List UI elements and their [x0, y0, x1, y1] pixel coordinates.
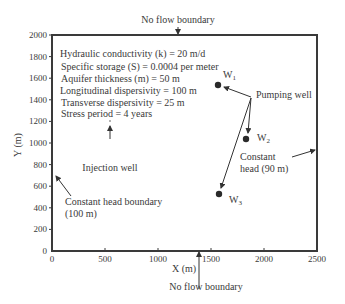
parameters-block: Hydraulic conductivity (k) = 20 m/d Spec…: [60, 48, 219, 119]
x-tick-label: 1000: [149, 254, 168, 264]
injection-well-marker: [109, 120, 111, 122]
left-boundary-label-line2: (100 m): [65, 208, 97, 220]
y-tick-label: 1600: [29, 73, 48, 83]
param-line: Longitudinal dispersivity = 100 m: [60, 85, 197, 96]
x-tick-label: 0: [50, 254, 55, 264]
y-tick-label: 800: [34, 160, 48, 170]
right-boundary-arrow: [292, 150, 315, 157]
x-axis-label: X (m): [172, 263, 196, 275]
param-line: Specific storage (S) = 0.0004 per meter: [61, 61, 219, 73]
y-axis-label: Y (m): [12, 133, 24, 157]
y-tick-label: 1000: [29, 138, 48, 148]
bottom-boundary-label: No flow boundary: [169, 281, 242, 292]
pumping-arrow-w3: [221, 98, 251, 188]
param-line: Stress period = 4 years: [61, 108, 152, 119]
injection-well-label: Injection well: [82, 162, 137, 173]
pumping-well-label: Pumping well: [256, 89, 312, 100]
right-boundary-label-line1: Constant: [240, 151, 276, 162]
y-tick-label: 1200: [29, 116, 48, 126]
param-line: Aquifer thickness (m) = 50 m: [61, 73, 180, 85]
well-w1-label: W1: [223, 69, 236, 82]
left-boundary-arrow: [56, 176, 71, 196]
y-tick-label: 200: [34, 224, 48, 234]
y-tick-label: 0: [43, 246, 48, 256]
well-w1-marker: [215, 82, 221, 88]
y-tick-label: 1800: [29, 52, 48, 62]
well-w3-label: W3: [229, 194, 242, 207]
y-tick-label: 400: [34, 203, 48, 213]
well-w2-label: W2: [257, 132, 270, 145]
y-tick-label: 2000: [29, 30, 48, 40]
well-w2-marker: [243, 136, 249, 142]
y-tick-label: 1400: [29, 95, 48, 105]
x-tick-label: 2000: [255, 254, 274, 264]
x-tick-label: 2500: [308, 254, 327, 264]
top-boundary-label: No flow boundary: [141, 14, 214, 25]
y-tick-label: 600: [34, 181, 48, 191]
well-w3-marker: [216, 191, 222, 197]
param-line: Transverse dispersivity = 25 m: [61, 97, 185, 108]
aquifer-diagram: No flow boundary 2000 1800 1600 1400 120…: [0, 0, 345, 304]
left-boundary-label-line1: Constant head boundary: [65, 196, 162, 207]
pumping-arrow-w1: [224, 87, 251, 97]
param-line: Hydraulic conductivity (k) = 20 m/d: [60, 48, 205, 60]
right-boundary-label-line2: head (90 m): [240, 163, 288, 175]
x-tick-label: 1500: [202, 254, 221, 264]
x-tick-label: 500: [98, 254, 112, 264]
